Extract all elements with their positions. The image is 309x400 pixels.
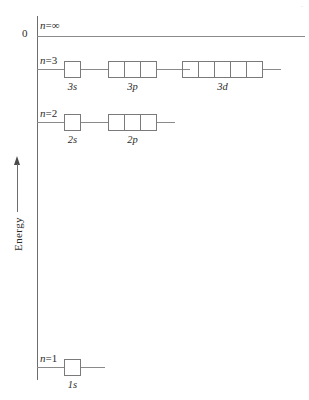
lead-line-left-3s xyxy=(37,69,64,70)
orbital-label-3p: 3p xyxy=(115,82,150,93)
orbital-label-1s: 1s xyxy=(55,380,90,391)
shell-label-n-3: n=3 xyxy=(40,55,57,66)
orbital-box[interactable] xyxy=(64,61,81,78)
orbital-box[interactable] xyxy=(124,61,141,78)
lead-line-right-3s xyxy=(81,69,108,70)
shell-label-n-infinity: n=∞ xyxy=(40,20,60,31)
shell-label-n-1: n=1 xyxy=(40,353,57,364)
orbital-box[interactable] xyxy=(182,61,199,78)
energy-axis-line xyxy=(37,16,38,380)
orbital-box[interactable] xyxy=(124,114,141,131)
orbital-box[interactable] xyxy=(64,359,81,376)
orbital-boxes-1s xyxy=(64,359,81,376)
orbital-label-3s: 3s xyxy=(55,82,90,93)
orbital-box[interactable] xyxy=(108,114,125,131)
energy-axis-annotation: Energy xyxy=(0,150,34,270)
orbital-boxes-2s xyxy=(64,114,81,131)
lead-line-right-3d xyxy=(263,69,281,70)
shell-label-n-2: n=2 xyxy=(40,108,57,119)
orbital-label-2p: 2p xyxy=(115,135,150,146)
orbital-boxes-3d xyxy=(182,61,263,78)
energy-level-diagram: · 0 Energy n=∞ n=3 3s xyxy=(0,0,309,400)
orbital-label-2s: 2s xyxy=(55,135,90,146)
energy-axis-label: Energy xyxy=(12,199,24,269)
orbital-label-3d: 3d xyxy=(205,82,240,93)
lead-line-right-2p xyxy=(157,122,175,123)
orbital-box[interactable] xyxy=(246,61,263,78)
orbital-box[interactable] xyxy=(230,61,247,78)
orbital-boxes-2p xyxy=(108,114,157,131)
shell-value-1: 1 xyxy=(52,352,58,364)
shell-value-2: 2 xyxy=(52,107,58,119)
orbital-box[interactable] xyxy=(198,61,215,78)
axis-zero-label: 0 xyxy=(22,28,28,39)
lead-line-left-2s xyxy=(37,122,64,123)
orbital-box[interactable] xyxy=(140,61,157,78)
shell-value-3: 3 xyxy=(52,54,58,66)
shell-value-infinity: ∞ xyxy=(52,19,60,31)
orbital-box[interactable] xyxy=(64,114,81,131)
lead-line-left-1s xyxy=(37,367,64,368)
lead-line-right-2s xyxy=(81,122,108,123)
orbital-box[interactable] xyxy=(140,114,157,131)
orbital-box[interactable] xyxy=(214,61,231,78)
orbital-box[interactable] xyxy=(108,61,125,78)
lead-line-right-1s xyxy=(81,367,105,368)
orbital-boxes-3p xyxy=(108,61,157,78)
scan-artifact: · xyxy=(301,3,303,11)
orbital-boxes-3s xyxy=(64,61,81,78)
continuum-level-line xyxy=(37,36,305,37)
